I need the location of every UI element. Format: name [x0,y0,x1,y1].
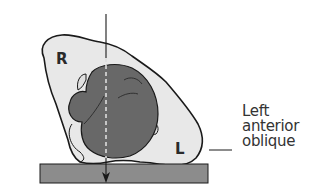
imaging-table [40,164,208,183]
projection-caption: Left anterior oblique [242,104,299,149]
lao-diagram [0,0,327,193]
label-left: L [175,140,185,158]
label-right: R [56,50,68,68]
caption-line-3: oblique [242,134,299,149]
